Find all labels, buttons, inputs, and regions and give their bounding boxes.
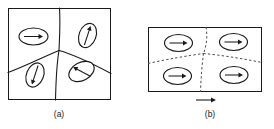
panel-a: (a) [8,8,111,119]
panel-a-caption: (a) [54,109,65,119]
panel-a-domain-upper-left [19,28,48,45]
panel-b-domain-upper-right [220,34,248,51]
panel-b-domain-lower-left [164,68,192,85]
panel-b-domain-upper-left [165,35,193,52]
panel-b: (b) [148,27,262,119]
applied-field-arrow-head [211,98,216,103]
applied-field-arrow [196,98,216,103]
panel-b-caption: (b) [205,109,216,119]
magnetic-domains-figure: (a) [0,0,274,129]
figure-root: (a) [0,0,274,129]
panel-b-domain-lower-right [220,67,248,84]
